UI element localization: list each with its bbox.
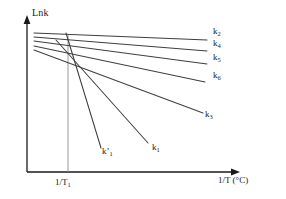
- series-label-k6: k6: [213, 71, 221, 80]
- series-label-k5-subscript: 5: [218, 56, 221, 63]
- chart-figure: Lnk 1/T (°C) 1/T1 k2 k4 k5 k6 k3 k1 k’1: [0, 0, 286, 199]
- series-label-k3-subscript: 3: [210, 113, 213, 120]
- series-label-k3: k3: [205, 110, 213, 119]
- y-axis-title: Lnk: [32, 8, 49, 18]
- series-label-k6-base: k: [213, 70, 218, 80]
- x-tick-label-1-subscript: 1: [68, 181, 71, 188]
- series-label-k2-subscript: 2: [218, 30, 221, 37]
- x-tick-label-1: 1/T1: [55, 178, 71, 187]
- series-label-k4-subscript: 4: [218, 42, 221, 49]
- x-tick-label-1-base: 1/T: [55, 177, 68, 187]
- x-axis-title: 1/T (°C): [218, 176, 248, 185]
- series-line-k3: [34, 50, 203, 113]
- series-label-k6-subscript: 6: [218, 74, 221, 81]
- series-line-k1: [56, 40, 148, 143]
- series-label-k1-base: k: [152, 142, 157, 152]
- series-label-k5: k5: [213, 53, 221, 62]
- series-label-k1-subscript: 1: [157, 146, 160, 153]
- series-label-k4-base: k: [213, 38, 218, 48]
- series-label-k2: k2: [213, 27, 221, 36]
- series-label-k5-base: k: [213, 52, 218, 62]
- series-label-k3-base: k: [205, 109, 210, 119]
- plot-canvas: [0, 0, 286, 199]
- series-line-k1-prime: [66, 33, 101, 148]
- series-label-k1-prime-subscript: 1: [110, 150, 113, 157]
- series-lines-group: [34, 33, 207, 148]
- series-label-k1: k1: [152, 143, 160, 152]
- series-line-k6: [34, 46, 205, 82]
- y-axis-arrowhead: [24, 15, 31, 24]
- series-label-k4: k4: [213, 39, 221, 48]
- series-label-k1-prime: k’1: [102, 147, 113, 156]
- series-label-k2-base: k: [213, 26, 218, 36]
